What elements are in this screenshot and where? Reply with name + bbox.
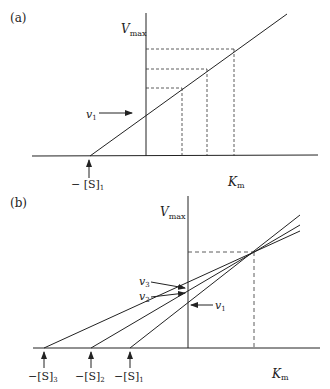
panel-a-v1-label: v1 [86,108,97,122]
panel-b: (b) Vmax v3 v2 v1 −[S]3 −[S]2 −[S]1 Km [10,196,320,384]
figure-svg: (a) Vmax v1 − [S]1 Km (b) Vmax [0,0,330,389]
panel-b-s1-label: −[S]1 [114,370,144,384]
panel-b-km-label: Km [271,367,289,382]
panel-b-v1-label: v1 [215,299,226,313]
panel-b-line-s1 [130,215,300,348]
panel-a-dashed-projections [146,49,234,156]
panel-b-v3-arrow [151,282,185,288]
panel-a: (a) Vmax v1 − [S]1 Km [10,11,318,192]
panel-a-km-label: Km [227,175,245,190]
panel-b-label: (b) [10,196,27,210]
panel-b-line-s3 [44,231,300,348]
panel-a-vmax-label: Vmax [121,22,147,38]
panel-b-s3-label: −[S]3 [28,370,58,384]
panel-b-s2-label: −[S]2 [75,370,105,384]
panel-a-x-axis [32,155,318,156]
panel-b-v3-label: v3 [139,275,150,289]
panel-b-line-s2 [91,225,300,348]
panel-b-v2-label: v2 [139,290,150,304]
panel-b-v2-arrow [151,293,185,297]
direct-linear-plot-figure: (a) Vmax v1 − [S]1 Km (b) Vmax [0,0,330,389]
panel-b-vmax-label: Vmax [160,205,186,221]
panel-a-line [90,14,287,156]
panel-a-label: (a) [10,11,27,25]
panel-a-intercept-label: − [S]1 [71,178,104,192]
